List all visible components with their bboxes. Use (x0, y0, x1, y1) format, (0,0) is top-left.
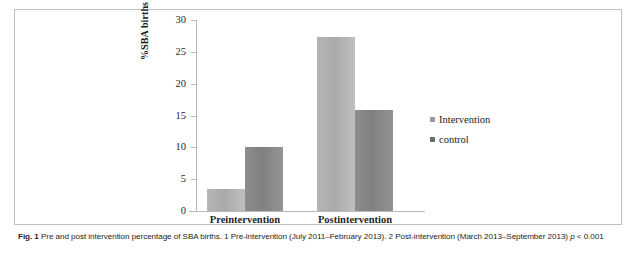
y-axis-tick-label: 20 (162, 79, 186, 89)
legend-label-control: control (439, 134, 469, 145)
figure-caption-text: Pre and post intervention percentage of … (39, 232, 570, 241)
y-axis-tick-label: 10 (162, 142, 186, 152)
y-axis-tick-label-wrap: 5 (160, 174, 186, 184)
figure-caption-label: Fig. 1 (18, 232, 39, 241)
chart-legend: Interventioncontrol (430, 112, 490, 152)
x-axis-label-postintervention: Postintervention (295, 214, 415, 226)
y-axis-tick-label: 30 (162, 15, 186, 25)
x-axis-label-preintervention: Preintervention (185, 214, 305, 226)
figure-caption: Fig. 1 Pre and post intervention percent… (18, 231, 624, 242)
legend-swatch-intervention-icon (430, 117, 435, 122)
y-axis-tick-label-wrap: 20 (160, 79, 186, 89)
y-axis-title: %SBA births / total births (138, 0, 152, 60)
x-axis-line (189, 211, 425, 212)
y-axis-tick-label-wrap: 30 (160, 15, 186, 25)
y-axis-tick-label: 15 (162, 111, 186, 121)
y-axis-tick-label-wrap: 25 (160, 47, 186, 57)
y-axis-tick-label-wrap: 15 (160, 111, 186, 121)
bar-control-preintervention (245, 147, 283, 211)
bar-intervention-postintervention (317, 37, 355, 211)
legend-item-intervention[interactable]: Intervention (430, 112, 490, 127)
figure-caption-pvalue-value: < 0.001 (575, 232, 604, 241)
legend-item-control[interactable]: control (430, 132, 490, 147)
y-axis-tick-label: 25 (162, 47, 186, 57)
legend-label-intervention: Intervention (439, 114, 490, 125)
y-axis-tick-label: 0 (162, 206, 186, 216)
y-axis-tick-label-wrap: 10 (160, 142, 186, 152)
y-axis-tick-label: 5 (162, 174, 186, 184)
bar-intervention-preintervention (207, 189, 245, 211)
legend-swatch-control-icon (430, 137, 435, 142)
y-axis-tick-label-wrap: 0 (160, 206, 186, 216)
plot-area (197, 20, 425, 211)
figure-root: %SBA births / total births 051015202530 … (0, 0, 637, 261)
bar-control-postintervention (355, 110, 393, 211)
